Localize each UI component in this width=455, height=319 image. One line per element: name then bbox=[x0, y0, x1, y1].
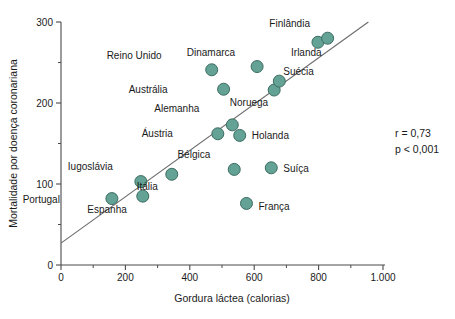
data-point-frana[interactable] bbox=[240, 197, 252, 209]
point-label-espanha: Espanha bbox=[87, 204, 127, 215]
y-tick-label: 200 bbox=[36, 98, 53, 109]
point-label-frana: França bbox=[258, 201, 290, 212]
y-axis-title: Mortalidade por doença coronariana bbox=[7, 59, 19, 228]
x-tick-label: 0 bbox=[58, 272, 64, 283]
point-label-reinounido: Reino Unido bbox=[107, 50, 162, 61]
point-label-ustria: Áustria bbox=[142, 127, 174, 139]
scatter-chart: 010020030002004006008001.000 PortugalIug… bbox=[0, 0, 455, 319]
x-tick-label: 200 bbox=[117, 272, 134, 283]
data-point-holanda[interactable] bbox=[234, 129, 246, 141]
point-label-sucia: Suécia bbox=[283, 66, 314, 77]
annotation-correlation: r = 0,73 bbox=[395, 127, 431, 139]
point-label-dinamarca: Dinamarca bbox=[187, 47, 236, 58]
y-tick-label: 300 bbox=[36, 17, 53, 28]
x-axis-title: Gordura láctea (calorias) bbox=[174, 292, 290, 304]
data-point-alemanha[interactable] bbox=[226, 119, 238, 131]
data-point-portugal[interactable] bbox=[106, 193, 118, 205]
point-label-portugal: Portugal bbox=[23, 194, 60, 205]
point-label-iugoslvia: Iugoslávia bbox=[68, 161, 113, 172]
point-labels: PortugalIugosláviaEspanhaItáliaReino Uni… bbox=[23, 18, 322, 215]
chart-canvas: 010020030002004006008001.000 PortugalIug… bbox=[0, 0, 455, 319]
stat-annotations: r = 0,73p < 0,001 bbox=[395, 127, 439, 155]
data-point-reinounido[interactable] bbox=[206, 64, 218, 76]
point-label-irlanda: Irlanda bbox=[291, 47, 322, 58]
x-tick-label: 600 bbox=[246, 272, 263, 283]
y-tick-label: 0 bbox=[47, 260, 53, 271]
point-label-itlia: Itália bbox=[137, 181, 159, 192]
point-label-finlndia: Finlândia bbox=[269, 18, 310, 29]
annotation-p-value: p < 0,001 bbox=[395, 143, 439, 155]
data-point-dinamarca[interactable] bbox=[251, 61, 263, 73]
x-tick-label: 1.000 bbox=[370, 272, 395, 283]
point-label-noruega: Noruega bbox=[230, 97, 269, 108]
point-label-austrlia: Austrália bbox=[129, 84, 168, 95]
data-point-itlia[interactable] bbox=[166, 168, 178, 180]
data-point-ustria[interactable] bbox=[212, 128, 224, 140]
point-label-holanda: Holanda bbox=[252, 130, 290, 141]
x-tick-label: 800 bbox=[310, 272, 327, 283]
x-tick-label: 400 bbox=[181, 272, 198, 283]
point-label-sua: Suíça bbox=[283, 163, 309, 174]
point-label-alemanha: Alemanha bbox=[154, 103, 199, 114]
data-point-austrlia[interactable] bbox=[218, 83, 230, 95]
data-point-sua[interactable] bbox=[265, 162, 277, 174]
point-label-blgica: Bélgica bbox=[177, 149, 210, 160]
data-point-blgica[interactable] bbox=[228, 163, 240, 175]
data-point-irlanda[interactable] bbox=[322, 32, 334, 44]
y-tick-label: 100 bbox=[36, 179, 53, 190]
